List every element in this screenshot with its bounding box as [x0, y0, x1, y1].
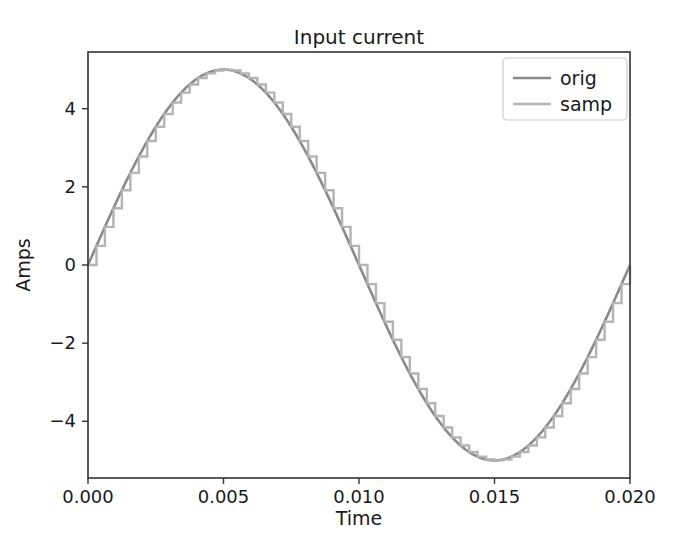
y-tick-label: 0 — [65, 254, 76, 275]
x-tick-label: 0.015 — [469, 486, 521, 507]
legend-label-orig: orig — [560, 67, 597, 89]
y-axis-label: Amps — [12, 238, 34, 291]
y-tick-label: 2 — [65, 176, 76, 197]
chart-legend[interactable]: orig samp — [503, 58, 627, 120]
x-tick-label: 0.010 — [333, 486, 385, 507]
chart-title: Input current — [294, 25, 424, 49]
x-axis-label: Time — [335, 507, 383, 529]
y-tick-label: −2 — [49, 332, 76, 353]
x-tick-label: 0.000 — [62, 486, 114, 507]
y-tick-label: 4 — [65, 98, 76, 119]
x-tick-label: 0.020 — [604, 486, 656, 507]
chart-canvas: Input current 0.0000.0050.0100.0150.020 … — [0, 0, 679, 557]
y-tick-label: −4 — [49, 410, 76, 431]
matplotlib-figure: Input current 0.0000.0050.0100.0150.020 … — [0, 0, 679, 557]
x-tick-label: 0.005 — [198, 486, 250, 507]
legend-label-samp: samp — [560, 93, 612, 115]
